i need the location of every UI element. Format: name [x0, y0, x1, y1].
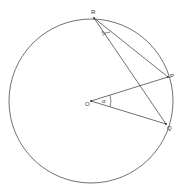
- label-r: R: [91, 9, 96, 15]
- point-p: [167, 76, 169, 78]
- segment-rp: [94, 18, 168, 77]
- circle-diagram: R P Q O α α/2: [0, 0, 182, 195]
- label-angle-o: α: [102, 98, 106, 104]
- label-o: O: [85, 101, 90, 107]
- label-p: P: [170, 73, 174, 79]
- point-r: [93, 17, 95, 19]
- label-q: Q: [167, 125, 172, 131]
- point-o: [90, 100, 92, 102]
- segment-oq: [91, 101, 166, 124]
- angle-arc-o: [110, 95, 111, 107]
